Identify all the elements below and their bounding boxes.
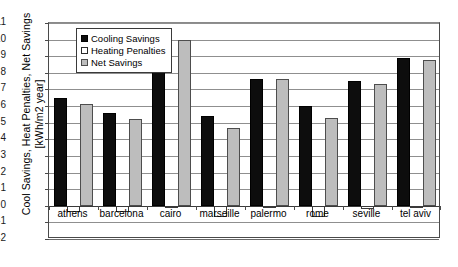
y-tick-mark xyxy=(45,139,49,140)
gridline xyxy=(49,222,439,223)
bar-rome-net-savings xyxy=(325,118,338,206)
y-tick-mark xyxy=(45,222,49,223)
y-tick-mark xyxy=(45,73,49,74)
y-tick-mark xyxy=(45,123,49,124)
bar-palermo-cooling-savings xyxy=(250,79,263,205)
bar-tel-aviv-net-savings xyxy=(423,60,436,206)
x-tick-mark xyxy=(440,206,441,210)
category-label-athens: athens xyxy=(48,208,97,219)
category-label-barcelona: barcelona xyxy=(97,208,146,219)
legend-swatch-icon xyxy=(81,35,88,42)
y-tick-label: 11 xyxy=(0,16,6,27)
bar-palermo-net-savings xyxy=(276,79,289,205)
bar-chart: Cool Savings, Heat Penalties, Net Saving… xyxy=(0,0,458,267)
gridline xyxy=(49,206,439,207)
y-tick-mark xyxy=(45,189,49,190)
bar-cairo-net-savings xyxy=(178,40,191,206)
bar-barcelona-net-savings xyxy=(129,119,142,205)
category-label-palermo: palermo xyxy=(244,208,293,219)
y-tick-label: 3 xyxy=(0,149,6,160)
legend-item-heating-penalties: Heating Penalties xyxy=(81,45,165,56)
y-axis-title-line1: Cool Savings, Heat Penalties, Net Saving… xyxy=(20,13,32,216)
legend-label: Heating Penalties xyxy=(91,46,165,56)
gridline xyxy=(49,23,439,24)
legend-item-cooling-savings: Cooling Savings xyxy=(81,33,165,44)
chart-legend: Cooling SavingsHeating PenaltiesNet Savi… xyxy=(76,28,172,73)
category-label-cairo: cairo xyxy=(146,208,195,219)
bar-rome-cooling-savings xyxy=(299,106,312,206)
category-label-marseille: marseille xyxy=(195,208,244,219)
bar-barcelona-cooling-savings xyxy=(103,113,116,206)
y-tick-mark xyxy=(45,89,49,90)
y-tick-label: 5 xyxy=(0,116,6,127)
y-tick-label: 8 xyxy=(0,66,6,77)
bar-athens-net-savings xyxy=(80,104,93,205)
y-tick-label: 0 xyxy=(0,199,6,210)
legend-label: Cooling Savings xyxy=(91,34,160,44)
bar-seville-cooling-savings xyxy=(348,81,361,206)
category-label-rome: rome xyxy=(293,208,342,219)
bar-marseille-net-savings xyxy=(227,128,240,206)
y-tick-label: 7 xyxy=(0,82,6,93)
bar-athens-cooling-savings xyxy=(54,98,67,206)
y-tick-mark xyxy=(45,173,49,174)
y-tick-label: 1 xyxy=(0,182,6,193)
y-axis-title: Cool Savings, Heat Penalties, Net Saving… xyxy=(20,0,48,234)
y-tick-mark xyxy=(45,23,49,24)
y-tick-label: 6 xyxy=(0,99,6,110)
y-tick-label: 4 xyxy=(0,132,6,143)
y-tick-label: -1 xyxy=(0,215,6,226)
y-tick-mark xyxy=(45,106,49,107)
y-axis-title-line2: [kWh/m2 year] xyxy=(33,0,46,234)
legend-swatch-icon xyxy=(81,47,88,54)
legend-label: Net Savings xyxy=(91,58,142,68)
gridline xyxy=(49,239,439,240)
y-tick-mark xyxy=(45,239,49,240)
y-tick-label: 10 xyxy=(0,33,6,44)
bar-tel-aviv-cooling-savings xyxy=(397,58,410,206)
y-tick-mark xyxy=(45,40,49,41)
y-tick-mark xyxy=(45,56,49,57)
y-tick-label: -2 xyxy=(0,232,6,243)
category-label-tel-aviv: tel aviv xyxy=(391,208,440,219)
legend-item-net-savings: Net Savings xyxy=(81,57,165,68)
bar-marseille-cooling-savings xyxy=(201,116,214,206)
y-tick-label: 9 xyxy=(0,49,6,60)
category-label-seville: seville xyxy=(342,208,391,219)
y-tick-label: 2 xyxy=(0,166,6,177)
bar-seville-net-savings xyxy=(374,84,387,205)
legend-swatch-icon xyxy=(81,59,88,66)
y-tick-mark xyxy=(45,156,49,157)
